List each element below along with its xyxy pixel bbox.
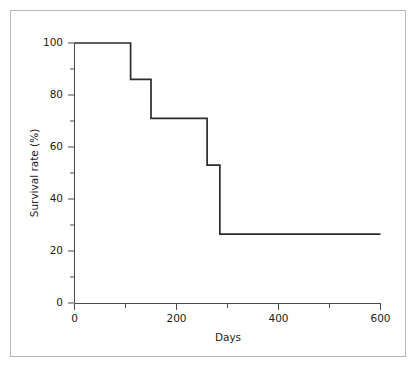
figure-root: 100 80 60 40 20 0 0 200 400 600 Days Sur…: [0, 0, 418, 372]
x-tick-label-0: 0: [71, 312, 78, 324]
y-tick-label-60: 60: [50, 140, 63, 152]
y-axis-title: Survival rate (%): [28, 129, 40, 218]
y-tick-label-0: 0: [56, 296, 63, 308]
x-tick-label-400: 400: [268, 312, 288, 324]
y-tick-label-100: 100: [43, 36, 63, 48]
x-axis-minor-ticks: [126, 304, 330, 309]
survival-curve-chart: 100 80 60 40 20 0 0 200 400 600 Days Sur…: [0, 0, 418, 372]
x-tick-label-200: 200: [166, 312, 186, 324]
y-tick-label-20: 20: [50, 244, 63, 256]
survival-curve-line: [75, 43, 381, 234]
y-axis-minor-ticks: [70, 69, 75, 277]
x-axis-title: Days: [215, 331, 241, 343]
y-tick-label-80: 80: [50, 88, 63, 100]
x-tick-label-600: 600: [370, 312, 390, 324]
y-tick-label-40: 40: [50, 192, 63, 204]
